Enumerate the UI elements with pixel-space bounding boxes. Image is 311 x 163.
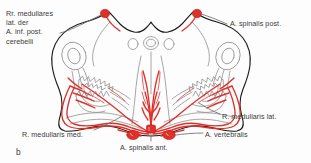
posterior-spinal-artery-right-dot: [192, 9, 201, 17]
label-lateral-medullary-branch: R. medullaris lat.: [222, 112, 276, 121]
leader-lines: [60, 14, 227, 141]
anatomy-figure: Rr. medullares lat. der A. inf. post. ce…: [0, 0, 311, 163]
vertebral-artery-left-dot: [127, 130, 139, 139]
label-medial-medullary-branch: R. medullaris med.: [22, 130, 83, 139]
leader-av: [176, 133, 203, 135]
label-posterior-inferior-cerebellar-branches: Rr. medullares lat. der A. inf. post. ce…: [6, 9, 53, 46]
anterior-spinal-artery-dot: [147, 125, 156, 133]
figure-letter: b: [16, 147, 21, 157]
posterior-spinal-artery-left-dot: [100, 9, 109, 17]
vertebral-artery-right-dot: [163, 130, 175, 139]
label-vertebral-artery: A. vertebralis: [205, 130, 248, 139]
leader-asp: [201, 14, 227, 24]
label-posterior-spinal-artery: A. spinalis post.: [230, 19, 281, 28]
label-anterior-spinal-artery: A. spinalis ant.: [120, 143, 168, 152]
